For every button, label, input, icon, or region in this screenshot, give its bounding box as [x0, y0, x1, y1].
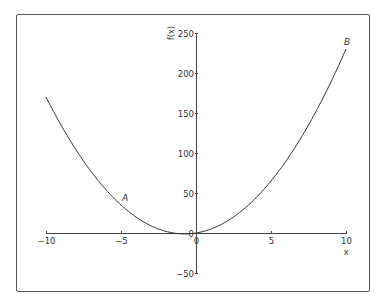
x-tick-label: 10 [341, 236, 352, 246]
y-tick-label: −50 [176, 269, 194, 279]
point-label-a: A [121, 193, 128, 203]
x-tick-label: −5 [115, 236, 128, 246]
x-tick-label: 5 [269, 236, 274, 246]
point-label-b: B [344, 37, 350, 47]
y-tick-label: 50 [183, 189, 194, 199]
ticks: −10−50510−50050100150200250 [38, 29, 352, 279]
chart-plot: −10−50510−50050100150200250 x f(x) A B [0, 0, 384, 305]
y-axis-label: f(x) [167, 26, 176, 40]
x-tick-label: 0 [194, 236, 199, 246]
x-tick-label: −10 [38, 236, 56, 246]
y-tick-label: 150 [178, 109, 194, 119]
y-tick-label: 250 [178, 29, 194, 39]
y-tick-label: 100 [178, 149, 194, 159]
x-axis-label: x [344, 248, 349, 257]
y-tick-label: 200 [178, 69, 194, 79]
